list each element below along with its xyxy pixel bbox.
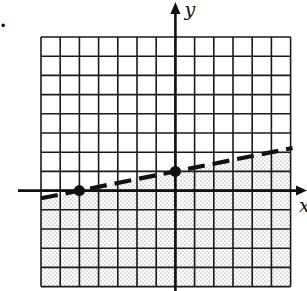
x-axis-label: x bbox=[299, 194, 307, 216]
inequality-graph bbox=[0, 0, 307, 291]
point-marker bbox=[74, 185, 85, 196]
point-marker bbox=[170, 166, 181, 177]
y-axis-label: y bbox=[184, 0, 195, 20]
shaded-region bbox=[41, 148, 291, 286]
